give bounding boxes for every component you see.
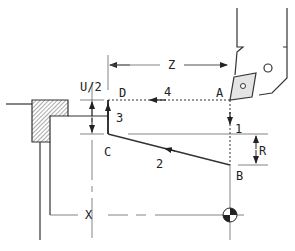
- hatched-stock: [32, 100, 68, 142]
- label-d: D: [119, 86, 126, 100]
- label-z: Z: [168, 58, 175, 72]
- label-step3: 3: [116, 111, 123, 125]
- label-a: A: [216, 86, 224, 100]
- label-r: R: [259, 144, 267, 158]
- cycle-diagram: U/2 Z R X: [0, 0, 295, 251]
- label-u-half: U/2: [80, 80, 102, 94]
- label-x: X: [85, 208, 93, 222]
- insert-screw-icon: [241, 84, 246, 89]
- label-c: C: [104, 145, 111, 159]
- workpiece: [6, 100, 108, 240]
- center-target-icon: [223, 208, 237, 222]
- tool-holder: [230, 8, 287, 100]
- r-dimension: R: [238, 136, 268, 165]
- label-b: B: [236, 169, 243, 183]
- x-axis: X: [50, 165, 244, 240]
- label-step4: 4: [164, 85, 171, 99]
- label-step2: 2: [156, 157, 163, 171]
- tool-path: [108, 100, 268, 165]
- holder-screw-icon: [264, 64, 272, 72]
- label-step1: 1: [235, 122, 242, 136]
